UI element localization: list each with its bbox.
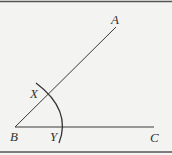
angle-construction-diagram: A B C X Y (0, 0, 172, 155)
label-a: A (110, 12, 119, 27)
label-b: B (10, 129, 18, 144)
label-c: C (150, 130, 159, 145)
label-y: Y (50, 129, 59, 144)
label-x: X (29, 86, 39, 101)
ray-ba (15, 27, 116, 127)
